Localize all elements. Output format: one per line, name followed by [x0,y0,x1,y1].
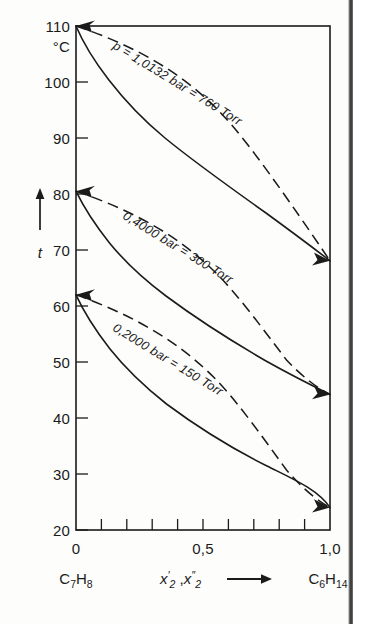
y-tick-labels: 110 100 90 80 70 60 50 40 30 20 [44,18,70,539]
x-tick-label: 0,5 [192,540,213,557]
curve-vapour-760 [76,26,330,261]
phase-diagram-figure: 110 100 90 80 70 60 50 40 30 20 °C t 0 0… [0,0,368,624]
y-tick-label: 100 [44,74,70,91]
page-margin [353,0,368,624]
y-tick-label: 70 [53,242,70,259]
y-axis-symbol-group: t [36,188,45,261]
y-tick-label: 110 [45,18,70,35]
right-species-label: C6H14 [308,570,347,590]
y-tick-label: 20 [53,522,70,539]
x-tick-label: 0 [72,540,81,557]
left-species-label: C7H8 [59,570,93,590]
y-axis-unit-label: °C [53,38,70,55]
y-tick-label: 50 [53,354,70,371]
annotation-150: 0,2000 bar = 150 Torr [110,321,226,399]
x-axis-symbol-group: x′2 ,x″2 [159,569,272,590]
y-axis-symbol: t [38,244,43,261]
y-tick-label: 60 [53,298,70,315]
curve-vapour-300 [76,191,330,394]
figure-page: 110 100 90 80 70 60 50 40 30 20 °C t 0 0… [0,0,368,624]
annotation-760: p = 1,0132 bar = 760 Torr [110,38,246,128]
annotation-300: 0,4000 bar = 300 Torr [120,209,236,287]
y-axis-ticks [76,26,88,530]
curve-liquidus-760 [76,26,330,261]
y-tick-label: 80 [53,186,70,203]
convergence-markers [312,253,330,513]
y-tick-label: 40 [53,410,70,427]
x-tick-label: 1,0 [319,540,340,557]
x-axis-ticks [101,519,304,530]
origin-markers [76,21,95,302]
y-tick-label: 90 [53,130,70,147]
curve-liquidus-300 [76,191,330,394]
x-axis-symbol: x′2 ,x″2 [159,569,201,590]
x-tick-labels: 0 0,5 1,0 [72,540,341,557]
y-tick-label: 30 [53,466,70,483]
